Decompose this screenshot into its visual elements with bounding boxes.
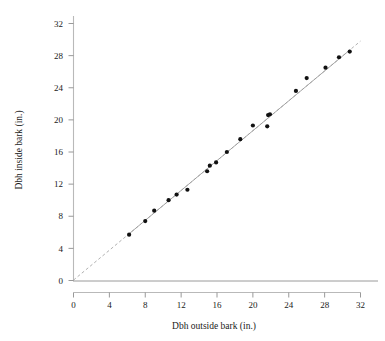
x-axis-ticks: [74, 293, 361, 298]
x-axis-title: Dbh outside bark (in.): [172, 321, 256, 332]
data-point: [348, 50, 352, 54]
y-tick-label-32: 32: [54, 19, 63, 29]
y-tick-label-8: 8: [59, 211, 64, 221]
x-axis-tick-labels: 048121620242832: [71, 300, 365, 310]
data-point: [175, 192, 179, 196]
y-axis-ticks: [69, 24, 74, 281]
y-tick-label-4: 4: [59, 244, 64, 254]
y-axis-tick-labels: 048121620242832: [54, 19, 64, 286]
y-axis-title: Dbh inside bark (in.): [14, 110, 25, 189]
x-tick-label-16: 16: [213, 300, 223, 310]
data-point: [323, 66, 327, 70]
x-tick-label-32: 32: [356, 300, 365, 310]
data-point: [225, 150, 229, 154]
y-tick-label-16: 16: [54, 147, 64, 157]
data-point: [238, 137, 242, 141]
data-point: [152, 209, 156, 213]
y-tick-label-20: 20: [54, 115, 64, 125]
data-point: [208, 164, 212, 168]
x-tick-label-8: 8: [143, 300, 148, 310]
y-tick-label-24: 24: [54, 83, 64, 93]
data-point: [268, 112, 272, 116]
fit-line-solid: [129, 50, 350, 234]
data-point: [127, 233, 131, 237]
scatter-plot-figure: 048121620242832 048121620242832 Dbh outs…: [0, 0, 385, 341]
data-points: [127, 50, 352, 237]
x-tick-label-20: 20: [248, 300, 258, 310]
x-tick-label-0: 0: [71, 300, 76, 310]
data-point: [337, 55, 341, 59]
data-point: [205, 169, 209, 173]
x-tick-label-24: 24: [284, 300, 294, 310]
y-tick-label-12: 12: [54, 179, 63, 189]
data-point: [143, 219, 147, 223]
data-point: [185, 188, 189, 192]
data-point: [265, 124, 269, 128]
plot-canvas: 048121620242832 048121620242832 Dbh outs…: [0, 0, 385, 341]
y-tick-label-28: 28: [54, 51, 64, 61]
x-tick-label-12: 12: [177, 300, 186, 310]
data-point: [214, 160, 218, 164]
x-tick-label-4: 4: [107, 300, 112, 310]
y-tick-label-0: 0: [59, 276, 64, 286]
data-point: [166, 198, 170, 202]
data-point: [294, 89, 298, 93]
x-tick-label-28: 28: [320, 300, 330, 310]
data-point: [251, 123, 255, 127]
data-point: [305, 76, 309, 80]
